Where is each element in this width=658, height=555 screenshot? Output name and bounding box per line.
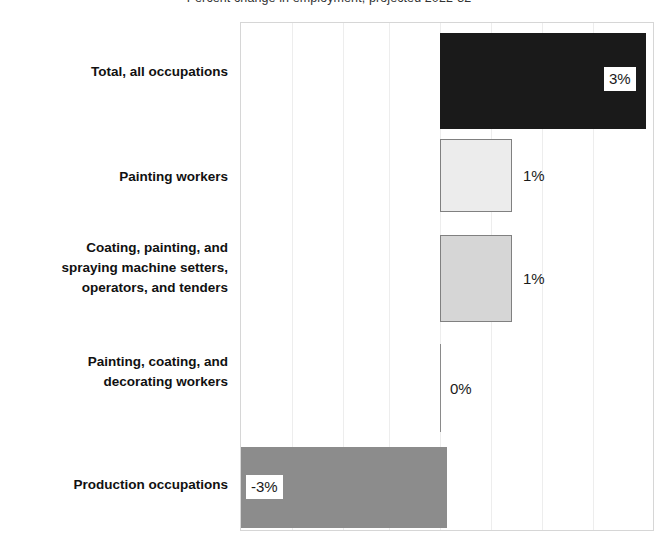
category-label-line: decorating workers (0, 372, 228, 392)
value-label-production-occupations: -3% (246, 475, 283, 499)
bar-coating-painting-spraying-machine-setters[interactable] (440, 235, 512, 322)
bar-painting-workers[interactable] (440, 139, 512, 212)
value-label-total-all-occupations: 3% (604, 67, 636, 91)
category-label-line: Painting workers (119, 169, 228, 184)
category-label-production-occupations: Production occupations (0, 475, 228, 495)
category-label-total-all-occupations: Total, all occupations (0, 62, 228, 82)
bar-painting-coating-decorating-workers[interactable] (440, 344, 441, 432)
category-label-line: Coating, painting, and (0, 238, 228, 258)
chart-title: Percent change in employment, projected … (0, 0, 658, 5)
category-label-line: Total, all occupations (91, 64, 228, 79)
category-label-line: Production occupations (73, 477, 228, 492)
category-label-line: operators, and tenders (0, 278, 228, 298)
value-label-coating-painting-spraying-machine-setters: 1% (523, 269, 545, 288)
plot-area: 3% 1% 1% 0% -3% (240, 22, 654, 531)
category-label-painting-workers: Painting workers (0, 167, 228, 187)
value-label-painting-coating-decorating-workers: 0% (450, 379, 472, 398)
category-label-coating-painting-spraying-machine-setters: Coating, painting, and spraying machine … (0, 238, 228, 298)
category-label-line: spraying machine setters, (0, 258, 228, 278)
value-label-painting-workers: 1% (523, 166, 545, 185)
category-label-line: Painting, coating, and (0, 352, 228, 372)
category-label-painting-coating-decorating-workers: Painting, coating, and decorating worker… (0, 352, 228, 392)
